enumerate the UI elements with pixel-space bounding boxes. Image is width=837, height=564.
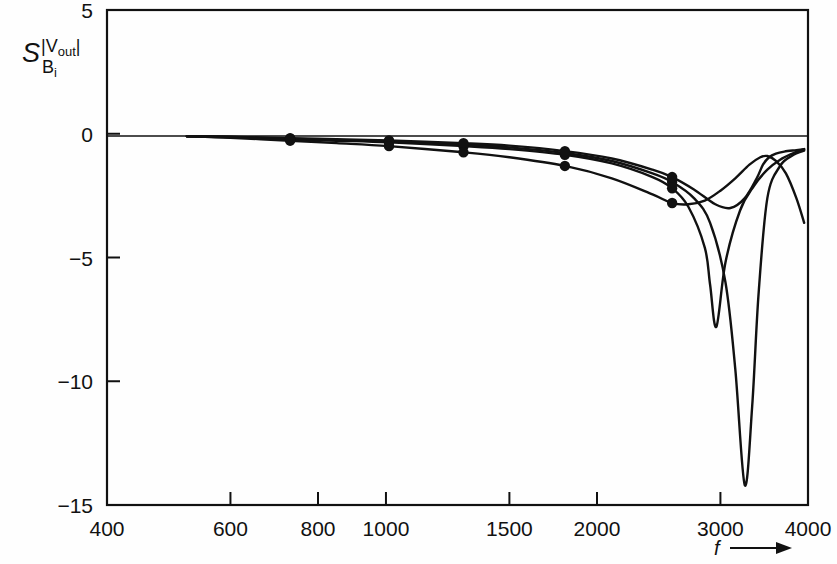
y-axis-title: S |Vout| Bi (22, 36, 80, 80)
x-tick-label-400: 400 (89, 517, 124, 540)
y-tick-label--10: −10 (57, 370, 93, 393)
data-point-marker (667, 172, 677, 182)
x-axis-ticks: 40060080010001500200030004000 (89, 492, 831, 540)
x-tick-label-800: 800 (300, 517, 335, 540)
data-curves (187, 136, 804, 485)
x-axis-title: f (714, 537, 792, 559)
y-tick-label-5: 5 (81, 0, 93, 22)
data-point-marker (560, 161, 570, 171)
data-point-marker (667, 198, 677, 208)
data-point-marker (458, 138, 468, 148)
curve-B2 (187, 136, 804, 485)
data-point-marker (458, 147, 468, 157)
x-axis-arrow-head (776, 542, 792, 554)
y-axis-title-symbol: S (22, 38, 40, 68)
y-axis-ticks: 50−5−10−15 (57, 0, 120, 517)
x-axis-title-label: f (714, 537, 722, 559)
data-point-marker (560, 146, 570, 156)
x-tick-label-1000: 1000 (363, 517, 410, 540)
y-tick-label-0: 0 (81, 123, 93, 146)
x-tick-label-3000: 3000 (697, 517, 744, 540)
y-tick-label--5: −5 (69, 247, 93, 270)
x-tick-label-2000: 2000 (574, 517, 621, 540)
y-axis-title-subscript: Bi (42, 57, 57, 80)
curve-B1 (187, 136, 804, 327)
x-tick-label-600: 600 (213, 517, 248, 540)
plot-border (107, 10, 808, 505)
data-point-marker (285, 135, 295, 145)
sensitivity-plot: 50−5−10−15 40060080010001500200030004000… (0, 0, 837, 564)
x-tick-label-4000: 4000 (785, 517, 832, 540)
chart-figure: 50−5−10−15 40060080010001500200030004000… (0, 0, 837, 564)
plot-frame (107, 10, 808, 505)
y-tick-label--15: −15 (57, 494, 93, 517)
data-point-marker (384, 141, 394, 151)
x-tick-label-1500: 1500 (486, 517, 533, 540)
y-axis-title-superscript: |Vout| (41, 36, 80, 59)
